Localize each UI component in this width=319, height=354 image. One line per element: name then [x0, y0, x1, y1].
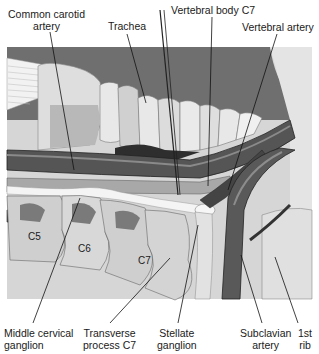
label-line: artery	[8, 20, 85, 32]
label-line: Middle cervical	[4, 327, 73, 339]
vertebra-label-c6: C6	[78, 243, 91, 254]
label-line: Stellate	[157, 327, 197, 339]
label-vertebral-body-c7: Vertebral body C7	[171, 4, 255, 16]
label-line: Subclavian	[240, 327, 291, 339]
label-line: process C7	[83, 339, 136, 351]
label-stellate-ganglion: Stellate ganglion	[157, 327, 197, 351]
first-rib	[262, 208, 312, 299]
vertebra-label-c5: C5	[28, 231, 41, 242]
vertebra-label-c7: C7	[138, 255, 151, 266]
label-common-carotid-artery: Common carotid artery	[8, 8, 85, 32]
label-line: Common carotid	[8, 8, 85, 20]
label-line: ganglion	[4, 339, 73, 351]
label-subclavian-artery: Subclavian artery	[240, 327, 291, 351]
thyroid-shadow	[50, 105, 99, 148]
label-first-rib: 1st rib	[298, 327, 312, 351]
label-line: Vertebral body C7	[171, 4, 255, 16]
label-line: Vertebral artery	[242, 21, 314, 33]
label-line: artery	[240, 339, 291, 351]
label-middle-cervical-ganglion: Middle cervical ganglion	[4, 327, 73, 351]
label-line: 1st	[298, 327, 312, 339]
label-line: Transverse	[83, 327, 136, 339]
label-trachea: Trachea	[108, 20, 146, 32]
label-transverse-process-c7: Transverse process C7	[83, 327, 136, 351]
anatomy-illustration: C5 C6 C7	[0, 0, 319, 354]
label-line: ganglion	[157, 339, 197, 351]
label-line: rib	[298, 339, 312, 351]
label-line: Trachea	[108, 20, 146, 32]
label-vertebral-artery: Vertebral artery	[242, 21, 314, 33]
